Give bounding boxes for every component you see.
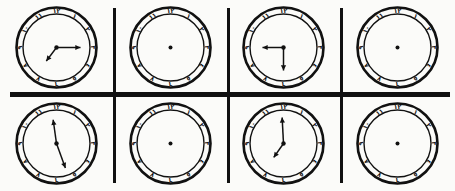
clock-numeral-10: ١٠ [360,24,370,34]
clock-center-dot [395,46,399,50]
clock-numeral-11: ١١ [33,106,43,116]
clock-hour-hand [263,45,284,50]
clock-numeral-6: ٦ [168,176,172,183]
clock-center-dot [281,141,285,145]
clock-numeral-3: ٣ [90,46,97,50]
clock-numeral-6: ٦ [54,81,58,88]
clock-numeral-12: ١٢ [53,7,61,14]
clock-numeral-3: ٣ [430,141,437,145]
clock-8: ١٢١٢٣٤٥٦٧٨٩١٠١١ [341,96,454,191]
clock-1: ١٢١٢٣٤٥٦٧٨٩١٠١١ [0,0,113,95]
clock-numeral-12: ١٢ [393,103,401,110]
clock-numeral-12: ١٢ [166,7,174,14]
clock-numeral-11: ١١ [374,11,384,21]
clock-numeral-10: ١٠ [20,120,30,130]
clock-numeral-11: ١١ [33,11,43,21]
clock-numeral-11: ١١ [147,11,157,21]
clock-minute-hand [281,48,286,71]
clock-numeral-10: ١٠ [20,24,30,34]
clock-numeral-12: ١٢ [166,103,174,110]
clock-3: ١٢١٢٣٤٥٦٧٨٩١٠١١ [227,0,340,95]
clock-numeral-3: ٣ [203,46,210,50]
clock-face: ١٢١٢٣٤٥٦٧٨٩١٠١١ [227,0,340,95]
clock-numeral-6: ٦ [281,81,285,88]
clock-5: ١٢١٢٣٤٥٦٧٨٩١٠١١ [0,96,113,191]
clock-4: ١٢١٢٣٤٥٦٧٨٩١٠١١ [341,0,454,95]
clock-numeral-6: ٦ [168,81,172,88]
clock-numeral-6: ٦ [395,176,399,183]
clock-numeral-3: ٣ [203,141,210,145]
clock-numeral-9: ٩ [357,141,364,145]
clock-numeral-10: ١٠ [133,24,143,34]
clock-hour-hand [51,119,56,143]
clock-6: ١٢١٢٣٤٥٦٧٨٩١٠١١ [114,96,227,191]
clock-center-dot [54,141,58,145]
clock-numeral-12: ١٢ [53,103,61,110]
clock-numeral-11: ١١ [260,11,270,21]
clock-numeral-9: ٩ [243,45,250,49]
clock-2: ١٢١٢٣٤٥٦٧٨٩١٠١١ [114,0,227,95]
clock-face: ١٢١٢٣٤٥٦٧٨٩١٠١١ [114,96,227,191]
clock-numeral-9: ٩ [357,45,364,49]
clock-numeral-10: ١٠ [247,24,257,34]
clock-face: ١٢١٢٣٤٥٦٧٨٩١٠١١ [341,0,454,95]
clock-numeral-10: ١٠ [247,120,257,130]
clock-numeral-6: ٦ [54,176,58,183]
clock-numeral-12: ١٢ [280,7,288,14]
clock-face: ١٢١٢٣٤٥٦٧٨٩١٠١١ [341,96,454,191]
clock-center-dot [168,141,172,145]
clock-numeral-9: ٩ [130,45,137,49]
clock-numeral-10: ١٠ [360,120,370,130]
clock-face: ١٢١٢٣٤٥٦٧٨٩١٠١١ [0,0,113,95]
clock-center-dot [54,45,58,49]
clock-numeral-12: ١٢ [393,7,401,14]
clock-numeral-3: ٣ [430,46,437,50]
clock-numeral-6: ٦ [281,176,285,183]
clock-center-dot [395,141,399,145]
clock-minute-hand [57,45,81,50]
h-sep-1 [10,92,450,97]
clock-numeral-11: ١١ [260,106,270,116]
clock-center-dot [168,46,172,50]
clock-numeral-12: ١٢ [280,103,288,110]
clock-numeral-6: ٦ [395,81,399,88]
clock-grid-image: ١٢١٢٣٤٥٦٧٨٩١٠١١١٢١٢٣٤٥٦٧٨٩١٠١١١٢١٢٣٤٥٦٧٨… [0,0,455,191]
clock-numeral-10: ١٠ [133,120,143,130]
clock-minute-hand [57,143,67,167]
clock-numeral-9: ٩ [130,141,137,145]
clock-hour-hand [46,48,56,62]
clock-face: ١٢١٢٣٤٥٦٧٨٩١٠١١ [114,0,227,95]
clock-numeral-3: ٣ [90,141,97,145]
clock-center-dot [281,45,285,49]
clock-numeral-9: ٩ [16,141,23,145]
clock-numeral-11: ١١ [374,106,384,116]
clock-numeral-9: ٩ [16,45,23,49]
clock-numeral-9: ٩ [243,141,250,145]
clock-7: ١٢١٢٣٤٥٦٧٨٩١٠١١ [227,96,340,191]
clock-minute-hand [280,117,285,143]
clock-face: ١٢١٢٣٤٥٦٧٨٩١٠١١ [0,96,113,191]
clock-numeral-3: ٣ [317,141,324,145]
clock-face: ١٢١٢٣٤٥٦٧٨٩١٠١١ [227,96,340,191]
clock-numeral-3: ٣ [317,46,324,50]
clock-hour-hand [274,143,284,157]
clock-numeral-11: ١١ [147,106,157,116]
